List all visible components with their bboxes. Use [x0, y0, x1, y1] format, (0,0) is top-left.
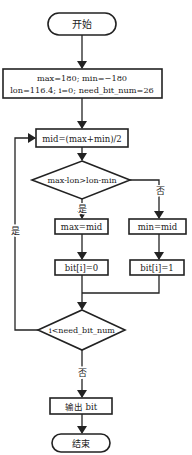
min-eq-mid-box: min=mid	[129, 219, 186, 234]
bit1-box: bit[i]=1	[130, 260, 184, 275]
cond1-label: max-lon>lon-min	[47, 176, 116, 185]
bit0-box: bit[i]=0	[55, 260, 108, 275]
mid-label: mid=(max+min)/2	[42, 134, 122, 144]
init-line1: max=180; min=−180	[37, 73, 127, 83]
output-label: 输出 bit	[65, 402, 98, 412]
bit1-label: bit[i]=1	[140, 263, 173, 273]
max-eq-mid-box: max=mid	[55, 219, 108, 234]
yes-label-loop: 是	[11, 226, 20, 236]
bit0-label: bit[i]=0	[65, 263, 98, 273]
start-terminal: 开始	[48, 13, 116, 35]
end-terminal: 结束	[52, 434, 110, 452]
no-label-cond1: 否	[156, 186, 165, 196]
decision-cond1: max-lon>lon-min	[32, 161, 130, 199]
output-box: 输出 bit	[50, 398, 112, 414]
max-eq-mid-label: max=mid	[61, 222, 103, 232]
min-eq-mid-label: min=mid	[138, 222, 178, 232]
end-label: 结束	[72, 438, 90, 449]
no-label-cond2: 否	[78, 368, 87, 378]
decision-cond2: i<need_bit_num	[38, 310, 125, 350]
start-label: 开始	[72, 18, 92, 30]
join-line	[82, 275, 159, 293]
init-line2: lon=116.4; i=0; need_bit_num=26	[10, 85, 154, 95]
yes-label-cond1: 是	[78, 204, 87, 214]
cond2-label: i<need_bit_num	[49, 326, 115, 335]
init-box: max=180; min=−180 lon=116.4; i=0; need_b…	[3, 69, 162, 98]
flowchart: 开始 max=180; min=−180 lon=116.4; i=0; nee…	[0, 0, 192, 455]
mid-box: mid=(max+min)/2	[36, 129, 128, 147]
